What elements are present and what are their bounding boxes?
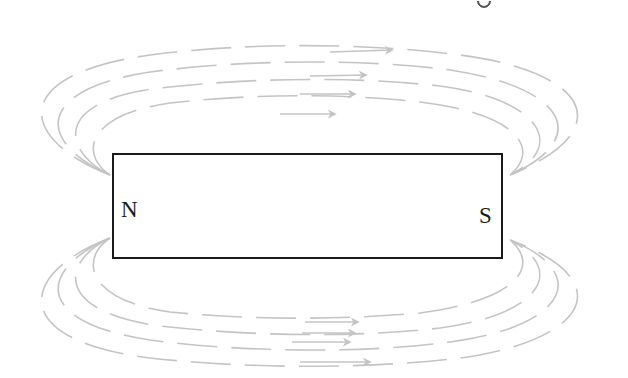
south-pole-label: S — [479, 204, 492, 227]
upper-arrows — [280, 50, 392, 114]
bar-magnet — [113, 154, 502, 258]
lower-arrows — [292, 322, 370, 362]
bar-magnet-diagram: N S — [0, 0, 628, 378]
arrow-icon — [310, 75, 366, 76]
north-pole-label: N — [121, 198, 138, 221]
arrow-icon — [330, 50, 392, 52]
